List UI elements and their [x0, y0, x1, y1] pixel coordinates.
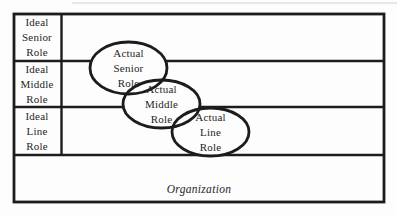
figure-canvas: Ideal Senior Role Ideal Middle Role Idea… [0, 0, 397, 215]
role-diagram-svg [0, 0, 397, 215]
